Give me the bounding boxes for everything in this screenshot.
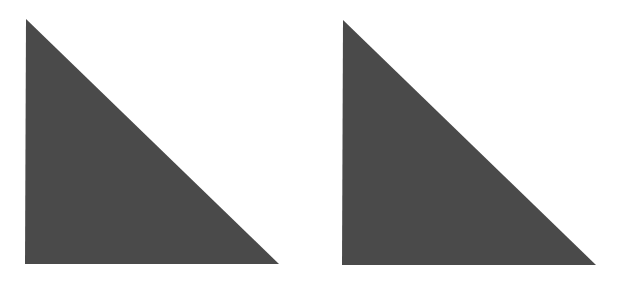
diagram-canvas [0,0,620,282]
left-triangle [25,19,279,264]
right-triangle [342,20,596,265]
